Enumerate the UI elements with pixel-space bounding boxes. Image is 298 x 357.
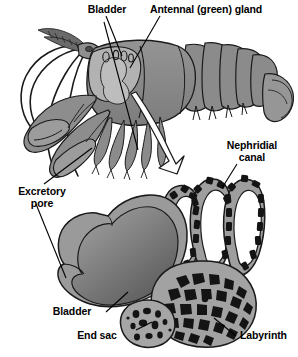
antennal-gland-enlarged [58, 175, 265, 348]
crayfish-excretory-figure: Bladder Antennal (green) gland Nephridia… [0, 0, 298, 357]
label-nephridial-canal-line1: Nephridial [212, 140, 292, 152]
label-excretory-pore-line1: Excretory [2, 186, 82, 198]
leg-tips [92, 166, 147, 180]
eye [86, 46, 93, 51]
figure-illustration [0, 0, 298, 357]
label-labyrinth: Labyrinth [240, 330, 298, 342]
label-excretory-pore-line2: pore [2, 198, 82, 210]
label-end-sac: End sac [62, 330, 132, 342]
label-bladder-top: Bladder [72, 4, 142, 16]
label-antennal-gland: Antennal (green) gland [150, 4, 298, 16]
tail-fan [263, 74, 294, 122]
label-nephridial-canal-line2: canal [212, 152, 292, 164]
label-bladder-bottom: Bladder [38, 306, 106, 318]
